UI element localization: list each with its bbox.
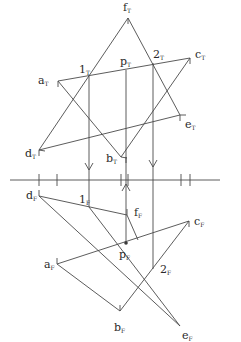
svg-text:1F: 1F	[79, 193, 90, 206]
label-d-top: d	[25, 147, 32, 160]
top-view-geometry	[39, 18, 190, 163]
svg-text:2T: 2T	[153, 48, 164, 61]
svg-text:eT: eT	[185, 118, 196, 131]
point-p-front	[124, 241, 128, 245]
projector-lines	[85, 63, 157, 269]
svg-text:bF: bF	[114, 321, 125, 334]
svg-text:eF: eF	[182, 329, 193, 342]
svg-text:bT: bT	[106, 152, 117, 165]
svg-text:pF: pF	[119, 248, 130, 261]
svg-text:cT: cT	[195, 48, 205, 61]
front-view-geometry	[39, 190, 189, 326]
svg-text:aT: aT	[38, 74, 49, 87]
svg-text:1T: 1T	[79, 63, 90, 76]
svg-text:dT: dT	[25, 147, 36, 160]
label-b-front: b	[114, 321, 121, 334]
svg-text:fF: fF	[134, 206, 142, 219]
svg-text:pT: pT	[120, 55, 131, 68]
ground-line	[10, 174, 220, 186]
svg-text:2F: 2F	[160, 263, 171, 276]
label-p-top: p	[120, 55, 127, 68]
projection-diagram: fT aT 1T pT 2T cT eT dT bT dF 1F fF cF p…	[0, 0, 241, 342]
top-view-labels: fT aT 1T pT 2T cT eT dT bT	[25, 1, 205, 165]
svg-text:aF: aF	[44, 258, 55, 271]
label-1-top: 1	[79, 63, 86, 76]
label-1-front: 1	[79, 193, 86, 206]
svg-text:fT: fT	[123, 1, 131, 14]
label-2-top: 2	[153, 48, 160, 61]
front-view-labels: dF 1F fF cF pF aF 2F bF eF	[26, 189, 204, 342]
label-b-top: b	[106, 152, 113, 165]
svg-text:dF: dF	[26, 189, 37, 202]
label-p-front: p	[119, 248, 126, 261]
label-d-front: d	[26, 189, 33, 202]
label-2-front: 2	[160, 263, 167, 276]
svg-text:cF: cF	[194, 215, 204, 228]
